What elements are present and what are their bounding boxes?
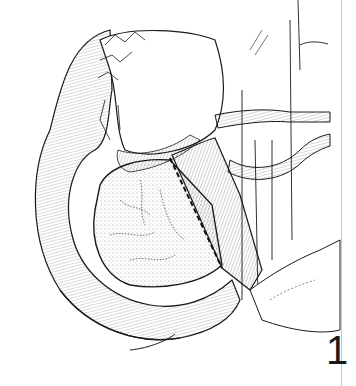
jejunum	[250, 240, 340, 332]
surgical-illustration	[0, 0, 356, 386]
figure-number: 1	[326, 330, 348, 370]
